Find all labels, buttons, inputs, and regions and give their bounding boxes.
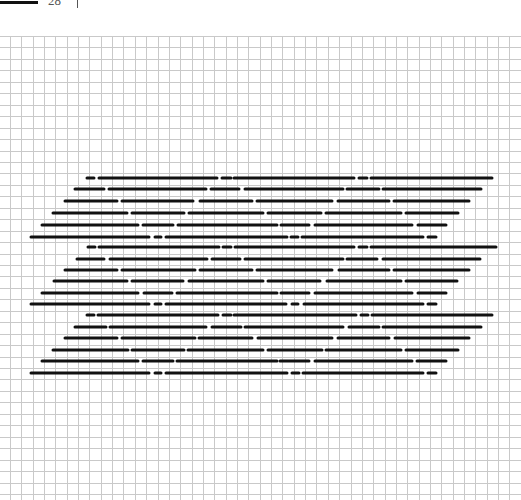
block-2 [31, 247, 496, 304]
dashed-line-pattern [0, 0, 521, 500]
block-3 [31, 315, 492, 373]
block-1 [31, 178, 492, 237]
